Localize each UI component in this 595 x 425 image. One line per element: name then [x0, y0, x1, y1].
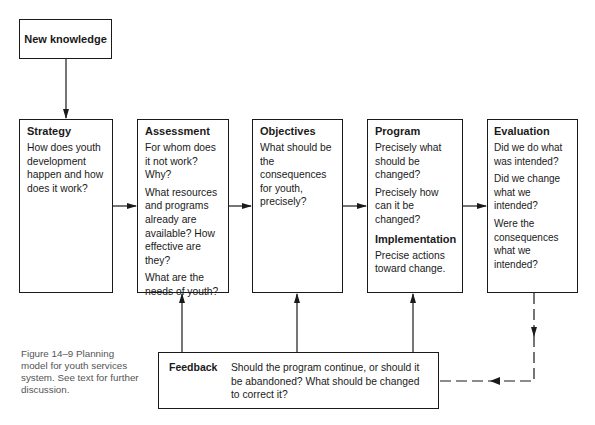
- objectives-title: Objectives: [260, 125, 336, 138]
- new-knowledge-box: New knowledge: [19, 19, 112, 59]
- objectives-box: Objectives What should be the consequenc…: [252, 119, 343, 293]
- feedback-label: Feedback: [169, 361, 231, 402]
- evaluation-question: Did we do what was intended?: [494, 141, 575, 168]
- figure-caption: Figure 14–9 Planning model for youth ser…: [21, 348, 141, 396]
- dashed-arrowhead-left: [490, 377, 500, 385]
- feedback-text: Should the program continue, or should i…: [231, 361, 430, 402]
- implementation-text: Precise actions toward change.: [375, 249, 456, 276]
- program-title: Program: [375, 125, 456, 138]
- strategy-title: Strategy: [27, 125, 106, 138]
- evaluation-question: Did we change what we intended?: [494, 172, 575, 213]
- new-knowledge-label: New knowledge: [24, 33, 107, 45]
- assessment-title: Assessment: [145, 125, 222, 138]
- feedback-box: Feedback Should the program continue, or…: [158, 352, 439, 409]
- assessment-box: Assessment For whom does it not work? Wh…: [137, 119, 229, 293]
- dashed-line-evaluation-to-feedback: [440, 336, 534, 381]
- strategy-question: How does youth development happen and ho…: [27, 141, 106, 195]
- program-box: Program Precisely what should be changed…: [367, 119, 463, 293]
- assessment-question: What resources and programs already are …: [145, 186, 222, 268]
- assessment-question: For whom does it not work? Why?: [145, 141, 222, 182]
- evaluation-question: Were the consequences what we intended?: [494, 217, 575, 271]
- program-question: Precisely what should be changed?: [375, 141, 456, 182]
- evaluation-title: Evaluation: [494, 125, 575, 138]
- assessment-question: What are the needs of youth?: [145, 271, 222, 298]
- strategy-box: Strategy How does youth development happ…: [19, 119, 113, 293]
- program-question: Precisely how can it be changed?: [375, 186, 456, 227]
- evaluation-box: Evaluation Did we do what was intended? …: [487, 119, 578, 293]
- implementation-title: Implementation: [375, 233, 456, 246]
- objectives-question: What should be the consequences for yout…: [260, 141, 336, 209]
